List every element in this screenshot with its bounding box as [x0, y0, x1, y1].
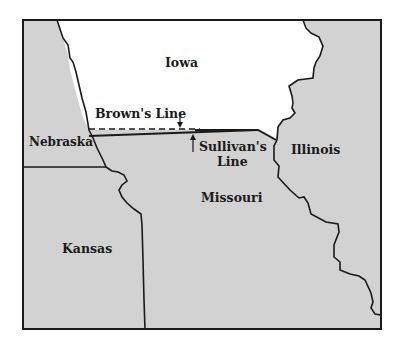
nebraska-label: Nebraska	[29, 135, 93, 149]
sullivans-line-label-1: Sullivan's	[199, 140, 267, 154]
boundary-map	[0, 0, 402, 348]
sullivans-line-label-2: Line	[217, 155, 248, 169]
illinois-label: Illinois	[291, 143, 340, 157]
browns-line-label: Brown's Line	[95, 107, 186, 121]
iowa-label: Iowa	[165, 56, 198, 70]
kansas-label: Kansas	[62, 242, 112, 256]
missouri-label: Missouri	[201, 191, 262, 205]
